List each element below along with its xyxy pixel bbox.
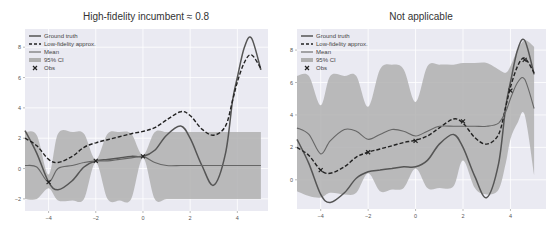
legend-label: Low-fidelity approx. (316, 41, 368, 47)
x-tick-label: −4 (318, 213, 324, 219)
figure: High-fidelity incumbent ≈ 0.8 −4−2024−20… (0, 0, 549, 229)
x-tick-label: 0 (141, 215, 144, 221)
x-tick-label: 2 (461, 213, 464, 219)
legend-label: 95% CI (316, 57, 336, 63)
left-panel: High-fidelity incumbent ≈ 0.8 −4−2024−20… (15, 11, 268, 221)
y-tick-label: 6 (18, 75, 21, 81)
y-tick-label: 0 (290, 177, 293, 183)
y-tick-label: 2 (18, 135, 21, 141)
x-tick-label: 0 (414, 213, 417, 219)
y-tick-label: 0 (18, 166, 21, 172)
legend-swatch-ci (301, 58, 313, 62)
legend-label: Ground truth (316, 33, 350, 39)
x-tick-label: 4 (509, 213, 512, 219)
y-tick-label: −2 (15, 196, 21, 202)
x-tick-label: 2 (189, 215, 192, 221)
legend-label: Mean (44, 49, 59, 55)
legend-label: Obs (316, 65, 327, 71)
legend-label: Low-fidelity approx. (44, 41, 96, 47)
legend-label: Mean (316, 49, 331, 55)
right-chart-title: Not applicable (389, 11, 453, 22)
legend-label: Ground truth (44, 33, 78, 39)
left-chart-title: High-fidelity incumbent ≈ 0.8 (83, 11, 210, 22)
y-tick-label: 6 (290, 80, 293, 86)
y-tick-label: 2 (290, 144, 293, 150)
legend-label: 95% CI (44, 57, 64, 63)
x-tick-label: 4 (236, 215, 239, 221)
y-tick-label: 4 (290, 112, 293, 118)
y-tick-label: 4 (18, 105, 21, 111)
x-tick-label: −4 (45, 215, 51, 221)
right-panel: Not applicable −4−202402468 Ground truth… (290, 11, 546, 219)
y-tick-label: 8 (18, 44, 21, 50)
legend-label: Obs (44, 65, 55, 71)
legend-swatch-ci (29, 58, 41, 62)
x-tick-label: −2 (93, 215, 99, 221)
y-tick-label: 8 (290, 47, 293, 53)
x-tick-label: −2 (365, 213, 371, 219)
